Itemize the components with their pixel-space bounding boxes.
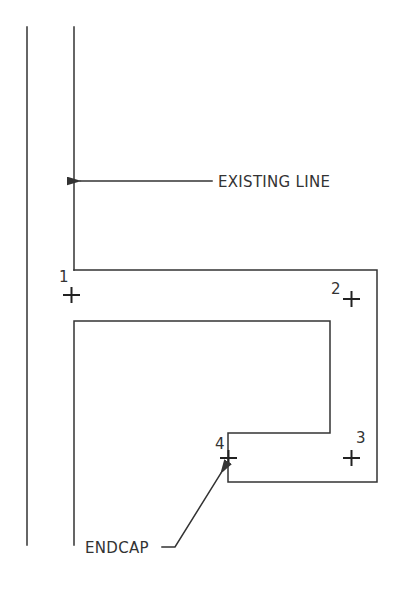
endcap-polyline xyxy=(74,270,377,545)
point-3-label: 3 xyxy=(356,429,366,447)
point-2-label: 2 xyxy=(331,280,341,298)
point-1-label: 1 xyxy=(59,268,69,286)
drawing-canvas: EXISTING LINE 1 2 3 4 ENDCAP xyxy=(0,0,397,589)
point-3-cross-icon xyxy=(343,450,360,466)
point-4-label: 4 xyxy=(215,435,225,453)
existing-line-label: EXISTING LINE xyxy=(218,173,330,191)
point-1-cross-icon xyxy=(63,287,80,303)
point-2-cross-icon xyxy=(343,291,360,307)
endcap-label: ENDCAP xyxy=(85,539,149,557)
endcap-leader xyxy=(162,473,221,547)
